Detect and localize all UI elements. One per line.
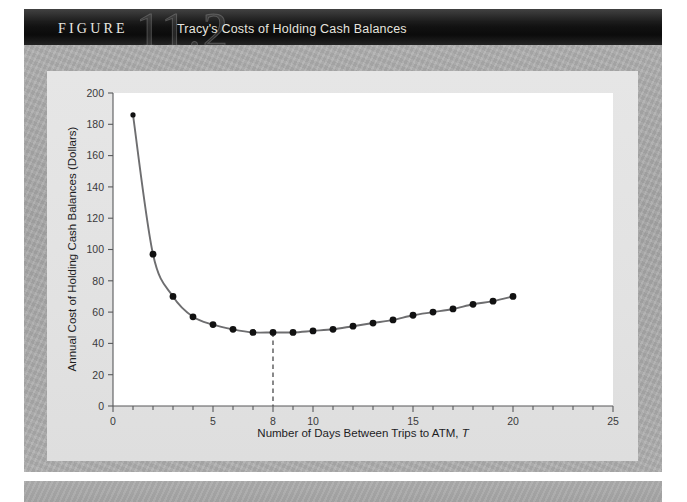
data-point [210,321,217,328]
data-point [430,309,437,316]
total-cost-curve [133,115,513,333]
data-point [170,293,177,300]
chart-axes [113,93,613,406]
data-point [290,329,297,336]
data-point [130,112,135,117]
data-point [270,329,277,336]
data-point [310,327,317,334]
y-tick-label: 160 [86,149,104,161]
data-point [370,320,377,327]
x-axis-title: Number of Days Between Trips to ATM, T [257,427,469,439]
y-tick-label: 0 [98,400,104,412]
y-tick-label: 140 [86,181,104,193]
figure-page: FIGURE 11.2 Tracy's Costs of Holding Cas… [0,0,687,502]
y-axis-ticks: 020406080100120140160180200 [86,87,113,412]
y-tick-label: 20 [92,369,104,381]
data-point [410,312,417,319]
data-point [510,293,517,300]
x-tick-label: 15 [407,415,419,427]
data-point [330,326,337,333]
y-tick-label: 60 [92,306,104,318]
data-point [250,329,257,336]
x-tick-label: 8 [270,415,276,427]
x-tick-label: 0 [110,415,116,427]
x-tick-label: 25 [607,415,619,427]
x-tick-label: 5 [210,415,216,427]
y-tick-label: 100 [86,243,104,255]
data-point [450,306,457,313]
y-tick-label: 200 [86,87,104,99]
section-separator [24,472,662,481]
data-point [470,301,477,308]
data-point [350,323,357,330]
data-point [150,251,157,258]
cost-curve-chart: 020406080100120140160180200 05810152025 … [0,0,687,502]
x-axis-ticks: 05810152025 [110,406,619,427]
data-point [490,298,497,305]
y-axis-title: Annual Cost of Holding Cash Balances (Do… [66,126,78,371]
data-point-markers [130,112,516,336]
y-tick-label: 40 [92,337,104,349]
y-tick-label: 120 [86,212,104,224]
y-tick-label: 180 [86,118,104,130]
x-tick-label: 20 [507,415,519,427]
x-tick-label: 10 [307,415,319,427]
data-point [390,317,397,324]
y-tick-label: 80 [92,275,104,287]
data-point [190,313,197,320]
data-point [230,326,237,333]
